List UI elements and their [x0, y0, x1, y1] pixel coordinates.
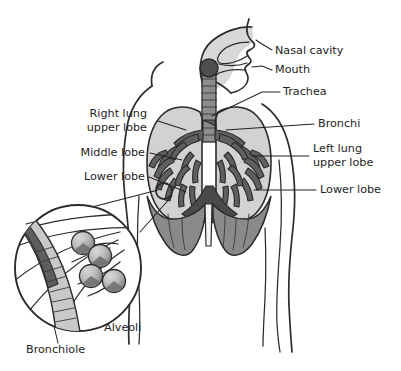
label-mouth: Mouth — [275, 63, 310, 76]
label-bronchiole: Bronchiole — [26, 343, 85, 356]
larynx-knob — [200, 59, 218, 77]
label-alveoli: Alveoli — [104, 321, 141, 334]
label-bronchi: Bronchi — [318, 117, 360, 130]
diagram-page: Nasal cavity Mouth Trachea Bronchi Left … — [0, 0, 401, 371]
respiratory-system-figure: Nasal cavity Mouth Trachea Bronchi Left … — [0, 0, 401, 371]
label-lower-lobe-left: Lower lobe — [84, 170, 145, 183]
label-left-lung-upper-lobe-line1: Left lung — [313, 142, 362, 155]
label-right-lung-upper-lobe-line1: Right lung — [90, 107, 147, 120]
label-lower-lobe-right: Lower lobe — [320, 183, 381, 196]
label-right-lung-upper-lobe-line2: upper lobe — [87, 121, 147, 134]
label-left-lung-upper-lobe-line2: upper lobe — [313, 156, 373, 169]
leader-mouth — [252, 66, 272, 70]
label-nasal-cavity: Nasal cavity — [275, 44, 344, 57]
inset-circle — [2, 205, 142, 332]
leader-nasal-cavity — [256, 40, 272, 50]
label-middle-lobe: Middle lobe — [81, 146, 146, 159]
label-trachea: Trachea — [282, 85, 327, 98]
